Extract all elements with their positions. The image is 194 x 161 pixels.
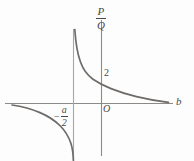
asymptote-label-fraction: a 2 xyxy=(61,105,68,128)
origin-label: O xyxy=(103,104,110,114)
y-axis-label-numerator: P xyxy=(96,6,106,17)
x-axis-label: b xyxy=(176,96,182,107)
asymptote-label-numerator: a xyxy=(61,105,68,115)
y-axis-label-fraction: P Q xyxy=(96,6,106,31)
asymptote-label-minus-sign: − xyxy=(54,112,60,122)
graph-figure: P Q b 2 O − a 2 xyxy=(0,0,194,161)
asymptote-label-denominator: 2 xyxy=(61,118,68,128)
y-axis-label-denominator: Q xyxy=(96,20,106,31)
asymptote-label: − a 2 xyxy=(54,105,68,128)
y-axis-label: P Q xyxy=(96,6,106,31)
y-intercept-label: 2 xyxy=(104,68,109,78)
right-branch-curve xyxy=(75,30,169,103)
